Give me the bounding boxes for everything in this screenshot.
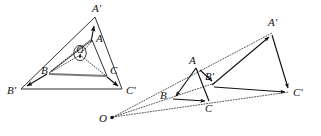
left-label-C-prime: C' [126, 84, 136, 96]
right-ray-O-A-Aprime [113, 33, 272, 117]
left-edge-B-C [49, 74, 107, 76]
left-outer-triangle [21, 17, 122, 89]
left-spoke-O-C [80, 55, 105, 75]
right-label-C-prime: C' [293, 86, 303, 98]
left-vectors [27, 26, 118, 86]
geometry-canvas: A' A B C B' C' O [0, 0, 321, 136]
right-label-B-prime: B' [205, 70, 215, 82]
left-chord-B-to-A1 [51, 40, 90, 71]
left-center-dot [79, 55, 82, 58]
right-diagram: A' A B' B C C' O [99, 16, 303, 124]
right-edge-Aprime-Cprime [272, 35, 288, 88]
left-label-C: C [110, 64, 118, 76]
right-rays-from-O [113, 33, 289, 117]
left-spoke-O-B [51, 55, 80, 72]
left-diagram: A' A B C B' C' O [7, 2, 136, 96]
left-edge-C-A [92, 40, 107, 76]
left-label-O: O [77, 45, 84, 55]
right-label-O: O [99, 112, 107, 124]
right-label-A: A [188, 54, 196, 66]
right-label-A-prime: A' [267, 16, 278, 28]
right-label-B: B [160, 89, 167, 101]
right-ray-O-C-Cprime [113, 92, 289, 117]
right-edge-Bprime-Aprime [212, 37, 269, 85]
left-label-A-prime: A' [91, 2, 102, 14]
right-label-C: C [205, 102, 213, 114]
left-label-A: A [95, 32, 103, 44]
left-edge-A1-B1 [21, 17, 95, 89]
left-vector-C-to-C1 [107, 77, 118, 86]
geometry-figure: A' A B C B' C' O [0, 0, 321, 136]
left-vector-A-to-A1 [91, 26, 94, 42]
right-center-dot [110, 116, 113, 119]
right-large-triangle [212, 35, 288, 92]
right-edge-B-C [173, 99, 205, 101]
left-label-B-prime: B' [7, 84, 17, 96]
right-edge-A-B [176, 68, 196, 96]
right-edge-Bprime-Cprime [214, 87, 285, 92]
left-label-B: B [41, 64, 48, 76]
